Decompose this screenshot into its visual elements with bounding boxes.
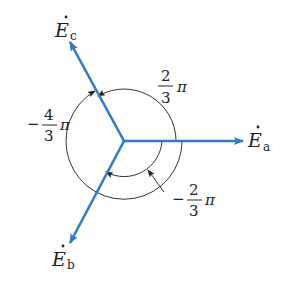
svg-text:π: π xyxy=(59,116,71,134)
label-eb: E b xyxy=(51,245,75,272)
phasor-eb xyxy=(70,141,124,243)
svg-text:E: E xyxy=(247,129,262,151)
svg-text:3: 3 xyxy=(189,202,199,220)
angle-label-minus-4-3-pi: − 4 3 π xyxy=(27,106,71,145)
svg-text:E: E xyxy=(51,248,66,270)
svg-text:π: π xyxy=(176,78,188,96)
arc-minus-4-3-pi xyxy=(66,91,182,199)
svg-text:b: b xyxy=(67,258,75,272)
angle-label-2-3-pi: 2 3 π xyxy=(158,67,188,107)
leader-line xyxy=(148,170,164,192)
svg-text:c: c xyxy=(70,29,77,43)
svg-text:−: − xyxy=(27,115,40,133)
phasor-ec xyxy=(70,42,124,141)
svg-text:3: 3 xyxy=(161,89,171,107)
svg-text:−: − xyxy=(172,190,185,208)
svg-text:E: E xyxy=(54,19,69,41)
svg-text:2: 2 xyxy=(161,67,171,85)
phasor-diagram: E c E a E b 2 3 π − 4 3 π − 2 3 π xyxy=(0,0,284,285)
svg-text:4: 4 xyxy=(44,106,54,124)
svg-text:a: a xyxy=(263,140,270,154)
svg-text:π: π xyxy=(204,191,216,209)
svg-text:3: 3 xyxy=(44,127,54,145)
label-ec: E c xyxy=(54,16,77,43)
label-ea: E a xyxy=(247,126,270,154)
angle-label-minus-2-3-pi: − 2 3 π xyxy=(172,181,216,220)
svg-text:2: 2 xyxy=(189,181,199,199)
